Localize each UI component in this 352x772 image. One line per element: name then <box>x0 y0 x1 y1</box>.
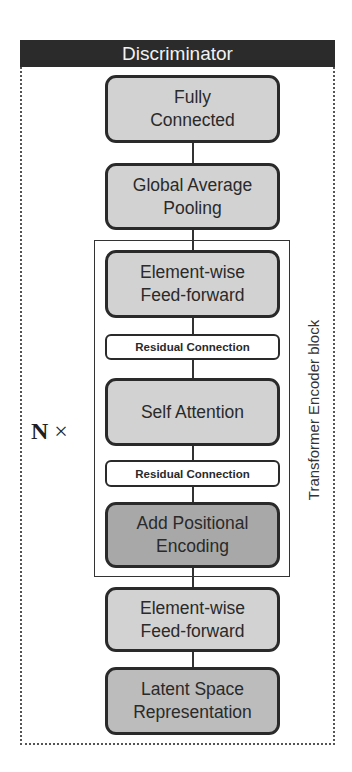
residual-connection-block: Residual Connection <box>105 460 280 487</box>
connector <box>192 487 194 502</box>
residual-connection-block: Residual Connection <box>105 334 280 360</box>
latent-space-representation-block: Latent Space Representation <box>105 667 280 735</box>
connector <box>192 568 194 587</box>
global-average-pooling-block: Global Average Pooling <box>105 163 280 230</box>
self-attention-block: Self Attention <box>105 378 280 446</box>
connector <box>192 446 194 460</box>
fully-connected-block: Fully Connected <box>105 75 280 143</box>
times-symbol: × <box>54 418 68 444</box>
connector <box>192 143 194 163</box>
element-wise-feed-forward-block: Element-wise Feed-forward <box>105 587 280 652</box>
connector <box>192 318 194 334</box>
element-wise-feed-forward-block: Element-wise Feed-forward <box>105 250 280 318</box>
connector <box>192 230 194 250</box>
add-positional-encoding-block: Add Positional Encoding <box>105 502 280 568</box>
n-symbol: N <box>31 418 48 444</box>
encoder-block-label: Transformer Encoder block <box>305 320 322 500</box>
connector <box>192 360 194 378</box>
discriminator-title: Discriminator <box>20 40 335 67</box>
connector <box>192 652 194 667</box>
repeat-n-label: N × <box>31 418 68 445</box>
